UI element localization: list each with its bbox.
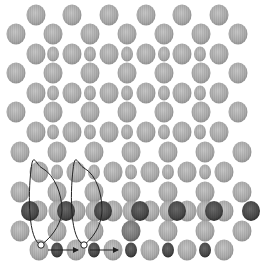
atom-row-A bbox=[27, 5, 229, 26]
atom-texture bbox=[194, 47, 206, 62]
atom-texture bbox=[158, 47, 170, 62]
atom-texture bbox=[210, 83, 229, 104]
atom-texture bbox=[47, 47, 59, 62]
atom-texture bbox=[63, 44, 82, 65]
atom-texture bbox=[44, 24, 63, 45]
atom-texture bbox=[63, 122, 82, 143]
atom-texture bbox=[125, 243, 137, 258]
atom-texture bbox=[48, 142, 67, 163]
atom-texture bbox=[100, 83, 119, 104]
atom-texture bbox=[27, 44, 46, 65]
atom-texture bbox=[7, 102, 26, 123]
atom-texture bbox=[122, 142, 141, 163]
atom-texture bbox=[199, 165, 211, 180]
atoms-layer bbox=[7, 5, 261, 261]
atom-texture bbox=[51, 165, 63, 180]
atom-texture bbox=[242, 201, 260, 221]
atom-texture bbox=[63, 5, 82, 26]
atom-texture bbox=[47, 86, 59, 101]
atom-texture bbox=[196, 221, 215, 242]
atom-texture bbox=[229, 102, 248, 123]
atom-texture bbox=[7, 63, 26, 84]
atom-row-I bbox=[30, 162, 234, 183]
atom-row-C bbox=[27, 44, 229, 65]
atom-texture bbox=[47, 125, 59, 140]
atom-texture bbox=[173, 44, 192, 65]
atom-texture bbox=[100, 122, 119, 143]
atom-texture bbox=[194, 86, 206, 101]
atom-texture bbox=[94, 201, 112, 221]
atom-texture bbox=[141, 240, 160, 261]
atom-row-K bbox=[21, 201, 260, 222]
atom-texture bbox=[205, 201, 223, 221]
atom-texture bbox=[84, 86, 96, 101]
atom-texture bbox=[229, 24, 248, 45]
atom-texture bbox=[192, 102, 211, 123]
atom-texture bbox=[27, 83, 46, 104]
atom-texture bbox=[178, 162, 197, 183]
atom-row-E bbox=[27, 83, 229, 104]
atom-texture bbox=[159, 142, 178, 163]
atom-texture bbox=[173, 83, 192, 104]
lattice-diagram bbox=[0, 0, 264, 271]
atom-texture bbox=[210, 44, 229, 65]
atom-texture bbox=[159, 182, 178, 203]
atom-texture bbox=[85, 182, 104, 203]
atom-texture bbox=[81, 102, 100, 123]
atom-texture bbox=[233, 221, 252, 242]
atom-row-F bbox=[7, 102, 248, 123]
atom-texture bbox=[121, 125, 133, 140]
atom-texture bbox=[11, 221, 30, 242]
atom-row-B bbox=[7, 24, 248, 45]
atom-texture bbox=[155, 63, 174, 84]
atom-texture bbox=[27, 122, 46, 143]
atom-texture bbox=[122, 221, 141, 242]
atom-texture bbox=[173, 122, 192, 143]
atom-row-H bbox=[11, 142, 252, 163]
vacancy-marker bbox=[81, 242, 87, 248]
atom-texture bbox=[215, 162, 234, 183]
atom-texture bbox=[118, 24, 137, 45]
atom-texture bbox=[192, 63, 211, 84]
atom-texture bbox=[100, 5, 119, 26]
atom-texture bbox=[122, 182, 141, 203]
atom-texture bbox=[44, 102, 63, 123]
atom-texture bbox=[137, 83, 156, 104]
atom-texture bbox=[196, 182, 215, 203]
atom-texture bbox=[233, 142, 252, 163]
atom-texture bbox=[11, 182, 30, 203]
atom-texture bbox=[121, 47, 133, 62]
atom-texture bbox=[85, 142, 104, 163]
atom-texture bbox=[81, 24, 100, 45]
atom-texture bbox=[125, 165, 137, 180]
atom-texture bbox=[137, 122, 156, 143]
atom-texture bbox=[84, 47, 96, 62]
atom-texture bbox=[48, 182, 67, 203]
atom-texture bbox=[67, 162, 86, 183]
atom-texture bbox=[168, 201, 186, 221]
atom-texture bbox=[158, 125, 170, 140]
atom-texture bbox=[210, 122, 229, 143]
atom-row-J bbox=[11, 182, 252, 203]
atom-texture bbox=[210, 5, 229, 26]
vacancy-marker bbox=[38, 242, 44, 248]
atom-texture bbox=[233, 182, 252, 203]
atom-texture bbox=[192, 24, 211, 45]
atom-texture bbox=[178, 240, 197, 261]
atom-texture bbox=[104, 162, 123, 183]
atom-texture bbox=[63, 83, 82, 104]
atom-texture bbox=[118, 63, 137, 84]
atom-texture bbox=[100, 44, 119, 65]
atom-texture bbox=[155, 102, 174, 123]
atom-texture bbox=[44, 63, 63, 84]
lattice-canvas bbox=[0, 0, 264, 271]
atom-texture bbox=[131, 201, 149, 221]
atom-texture bbox=[215, 240, 234, 261]
atom-texture bbox=[196, 142, 215, 163]
atom-texture bbox=[137, 5, 156, 26]
atom-texture bbox=[229, 63, 248, 84]
atom-texture bbox=[159, 221, 178, 242]
atom-texture bbox=[85, 221, 104, 242]
atom-texture bbox=[141, 162, 160, 183]
atom-row-D bbox=[7, 63, 248, 84]
